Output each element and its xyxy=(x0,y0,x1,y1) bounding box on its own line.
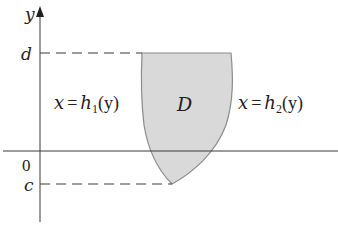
y-axis-arrow-icon xyxy=(36,6,44,17)
region-diagram: y d 0 c D x=h1(y) x=h2(y) xyxy=(0,0,338,225)
y-axis-label: y xyxy=(24,4,35,24)
left-curve-equation: x=h1(y) xyxy=(54,92,119,116)
d-label: d xyxy=(21,44,32,64)
region-d xyxy=(141,53,232,184)
svg-text:x=h1(y): x=h1(y) xyxy=(54,92,119,116)
svg-text:x=h2(y): x=h2(y) xyxy=(238,92,303,116)
region-label: D xyxy=(176,93,192,115)
c-label: c xyxy=(24,175,34,195)
origin-label: 0 xyxy=(22,156,31,175)
right-curve-equation: x=h2(y) xyxy=(238,92,303,116)
